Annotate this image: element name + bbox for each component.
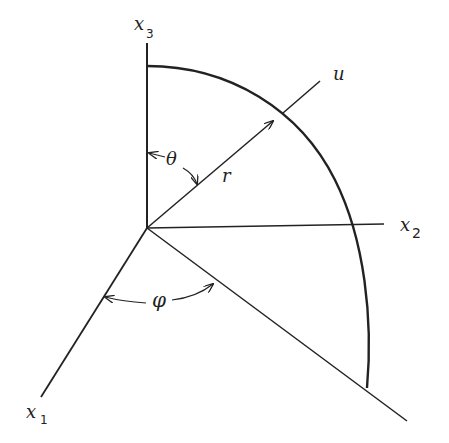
phi-arrow-right <box>172 284 213 300</box>
x3-subscript: 3 <box>146 27 154 41</box>
theta-arrow-left <box>149 153 165 157</box>
u-label: u <box>333 63 345 84</box>
radius-vector <box>147 121 273 228</box>
u-axis <box>283 81 320 113</box>
phi-arrow-left <box>105 297 146 303</box>
x2-label: x <box>400 214 410 235</box>
x2-axis <box>147 224 384 228</box>
theta-arrow-right <box>183 168 197 184</box>
x2-subscript: 2 <box>412 225 421 241</box>
phi-label: φ <box>152 288 166 312</box>
theta-label: θ <box>166 148 177 169</box>
x3-label: x <box>134 13 144 34</box>
r-label: r <box>222 165 232 186</box>
x1-axis <box>41 228 147 397</box>
x1-label: x <box>26 401 36 422</box>
spherical-coordinates-diagram: x 3 u θ r x 2 φ x 1 <box>0 0 449 443</box>
x1-subscript: 1 <box>40 413 48 427</box>
